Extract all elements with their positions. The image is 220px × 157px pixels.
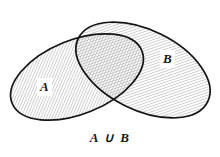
- figure-caption: A ∪ B: [0, 131, 220, 144]
- set-a-label: A: [37, 78, 52, 96]
- venn-diagram-figure: A B A ∪ B: [0, 0, 220, 157]
- set-b-label: B: [160, 50, 175, 68]
